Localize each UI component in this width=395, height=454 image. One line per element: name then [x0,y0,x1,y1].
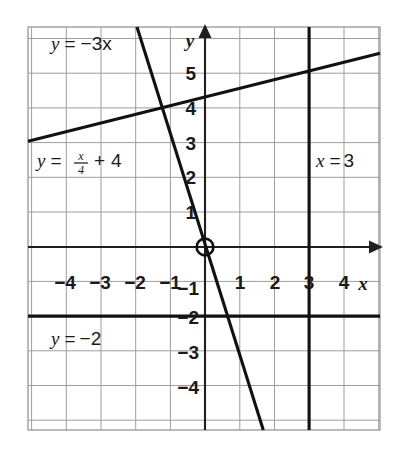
label-yneg2-text: y=−2 [49,328,101,349]
x-tick-label: 1 [235,272,246,293]
label-x3-value: 3 [344,150,355,171]
label-neg3x-variable: y [49,33,60,54]
x-axis-label: x [357,273,368,294]
x-tick-label: 2 [270,272,281,293]
y-tick-label: −1 [177,278,199,299]
x-tick-label: −2 [124,272,146,293]
label-x3-variable: x [315,150,325,171]
label-quarter-equals: = [50,150,61,171]
label-neg3x-equals: = [64,33,75,54]
label-yneg2-value: −2 [80,328,102,349]
y-tick-label: 3 [185,133,196,154]
coordinate-plane: −4 −3 −2 −1 1 2 3 4 5 4 3 2 1 −1 −2 −3 −… [0,0,395,454]
label-yneg2-equals: = [64,328,75,349]
x-tick-label: 4 [339,272,350,293]
y-axis-label: y [184,30,195,51]
y-tick-label: 1 [185,202,196,223]
label-quarter-fraction-numerator: x [77,149,84,163]
y-tick-label: −3 [177,342,199,363]
label-neg3x-value: −3x [81,33,113,54]
label-quarter-variable: y [35,150,46,171]
label-yneg2-variable: y [49,328,60,349]
y-tick-label: 5 [185,63,196,84]
label-line-x-equals-3: x=3 [315,150,354,171]
label-x3-text: x=3 [315,150,354,171]
y-tick-label: −2 [177,307,199,328]
y-tick-label: 4 [185,98,196,119]
label-line-y-equals-negative-3x: y=−3x [49,33,112,54]
x-tick-label: −4 [54,272,76,293]
label-x3-equals: = [329,150,340,171]
x-tick-label: 3 [304,272,315,293]
x-tick-label: −3 [89,272,111,293]
label-quarter-fraction-denominator: 4 [78,163,84,177]
label-line-y-equals-negative-2: y=−2 [49,328,101,349]
label-quarter-constant: 4 [111,150,122,171]
y-tick-label: 2 [185,167,196,188]
y-tick-label: −4 [177,377,199,398]
graph-figure: −4 −3 −2 −1 1 2 3 4 5 4 3 2 1 −1 −2 −3 −… [0,0,395,454]
label-quarter-plus: + [94,150,105,171]
label-neg3x-text: y=−3x [49,33,112,54]
